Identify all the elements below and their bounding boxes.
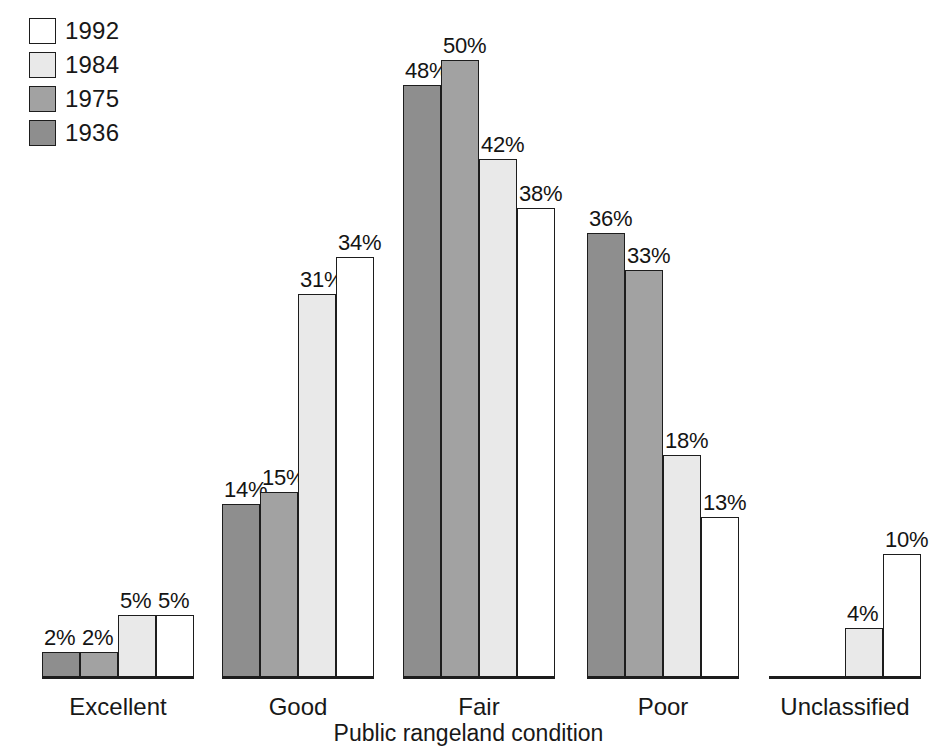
bar-value-label: 5% <box>120 590 151 612</box>
bar-poor-1936[interactable] <box>587 233 625 677</box>
bar-fair-1936[interactable] <box>403 85 441 677</box>
bar-poor-1975[interactable] <box>625 270 663 677</box>
category-label-poor: Poor <box>587 695 739 719</box>
bar-value-label: 50% <box>443 35 486 57</box>
bar-value-label: 42% <box>481 134 524 156</box>
bar-excellent-1936[interactable] <box>42 652 80 677</box>
bar-excellent-1975[interactable] <box>80 652 118 677</box>
bar-value-label: 4% <box>847 603 878 625</box>
bar-good-1984[interactable] <box>298 294 336 677</box>
axis-title-x: Public rangeland condition <box>0 720 937 747</box>
category-label-excellent: Excellent <box>42 695 194 719</box>
bar-fair-1975[interactable] <box>441 60 479 677</box>
bar-value-label: 10% <box>885 529 928 551</box>
bar-value-label: 38% <box>519 183 562 205</box>
bar-value-label: 36% <box>589 208 632 230</box>
bar-good-1975[interactable] <box>260 492 298 677</box>
bar-poor-1992[interactable] <box>701 517 739 677</box>
bar-fair-1992[interactable] <box>517 208 555 677</box>
category-label-unclassified: Unclassified <box>769 695 921 719</box>
bar-excellent-1992[interactable] <box>156 615 194 677</box>
bar-value-label: 33% <box>627 245 670 267</box>
bar-good-1936[interactable] <box>222 504 260 677</box>
plot-area: 2%2%5%5%Excellent14%15%31%34%Good48%50%4… <box>0 0 937 749</box>
bar-poor-1984[interactable] <box>663 455 701 677</box>
bar-value-label: 34% <box>338 232 381 254</box>
category-label-fair: Fair <box>403 695 555 719</box>
category-label-good: Good <box>222 695 374 719</box>
bar-good-1992[interactable] <box>336 257 374 677</box>
bar-chart: 1992198419751936 2%2%5%5%Excellent14%15%… <box>0 0 937 749</box>
bar-excellent-1984[interactable] <box>118 615 156 677</box>
bar-value-label: 13% <box>703 492 746 514</box>
bar-unclassified-1984[interactable] <box>845 628 883 677</box>
bar-fair-1984[interactable] <box>479 159 517 677</box>
bar-value-label: 2% <box>44 627 75 649</box>
bar-value-label: 5% <box>158 590 189 612</box>
bar-value-label: 2% <box>82 627 113 649</box>
bar-unclassified-1992[interactable] <box>883 554 921 677</box>
bar-value-label: 18% <box>665 430 708 452</box>
